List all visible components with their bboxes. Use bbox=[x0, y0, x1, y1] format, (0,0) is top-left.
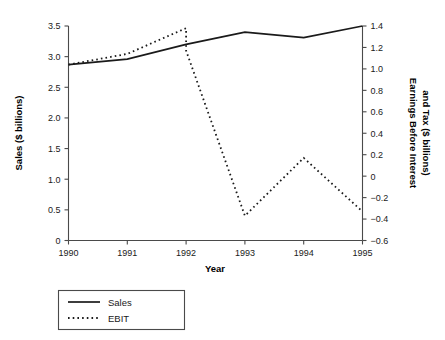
axis-right: −0.6−0.4−0.200.20.40.60.81.01.21.4 bbox=[363, 21, 389, 246]
right-axis-title-line2: and Tax ($ billions) bbox=[421, 90, 432, 175]
right-axis-title-line1: Earnings Before Interest bbox=[408, 78, 419, 189]
left-tick-label: 1.0 bbox=[48, 175, 61, 185]
right-tick-label: 0.4 bbox=[371, 129, 384, 139]
left-tick-label: 0 bbox=[55, 236, 60, 246]
right-tick-label: 0.6 bbox=[371, 107, 384, 117]
bottom-axis-title: Year bbox=[205, 263, 225, 274]
axis-bottom: 199019911992199319941995 bbox=[58, 241, 372, 258]
left-tick-label: 3.5 bbox=[48, 21, 61, 31]
left-tick-label: 1.5 bbox=[48, 144, 61, 154]
chart-container: 00.51.01.52.02.53.03.5 −0.6−0.4−0.200.20… bbox=[0, 0, 445, 340]
axis-left: 00.51.01.52.02.53.03.5 bbox=[48, 21, 69, 246]
right-tick-label: 0.8 bbox=[371, 86, 384, 96]
right-axis-tick-labels: −0.6−0.4−0.200.20.40.60.81.01.21.4 bbox=[371, 21, 389, 246]
bottom-tick-label: 1993 bbox=[235, 248, 255, 258]
bottom-tick-label: 1991 bbox=[117, 248, 137, 258]
series-line-sales bbox=[69, 26, 363, 65]
left-axis-ticks bbox=[65, 26, 69, 241]
bottom-axis-ticks bbox=[69, 241, 363, 245]
right-tick-label: 1.2 bbox=[371, 43, 384, 53]
right-tick-label: −0.4 bbox=[371, 214, 389, 224]
legend-label-sales: Sales bbox=[108, 297, 132, 308]
left-tick-label: 2.5 bbox=[48, 83, 61, 93]
right-tick-label: 1.4 bbox=[371, 21, 384, 31]
left-axis-tick-labels: 00.51.01.52.02.53.03.5 bbox=[48, 21, 61, 246]
left-tick-label: 2.0 bbox=[48, 113, 61, 123]
bottom-axis-tick-labels: 199019911992199319941995 bbox=[58, 248, 372, 258]
chart-legend: Sales EBIT bbox=[59, 291, 185, 330]
left-tick-label: 3.0 bbox=[48, 52, 61, 62]
series-line-ebit bbox=[69, 28, 363, 216]
bottom-tick-label: 1995 bbox=[352, 248, 372, 258]
bottom-tick-label: 1992 bbox=[176, 248, 196, 258]
bottom-tick-label: 1990 bbox=[58, 248, 78, 258]
left-axis-title: Sales ($ billions) bbox=[13, 96, 24, 171]
legend-label-ebit: EBIT bbox=[108, 313, 129, 324]
right-tick-label: 0 bbox=[371, 172, 376, 182]
right-tick-label: −0.6 bbox=[371, 236, 389, 246]
bottom-tick-label: 1994 bbox=[294, 248, 314, 258]
dual-axis-line-chart: 00.51.01.52.02.53.03.5 −0.6−0.4−0.200.20… bbox=[0, 0, 445, 340]
right-tick-label: −0.2 bbox=[371, 193, 389, 203]
right-tick-label: 1.0 bbox=[371, 64, 384, 74]
left-tick-label: 0.5 bbox=[48, 205, 61, 215]
right-tick-label: 0.2 bbox=[371, 150, 384, 160]
right-axis-ticks bbox=[363, 26, 367, 241]
